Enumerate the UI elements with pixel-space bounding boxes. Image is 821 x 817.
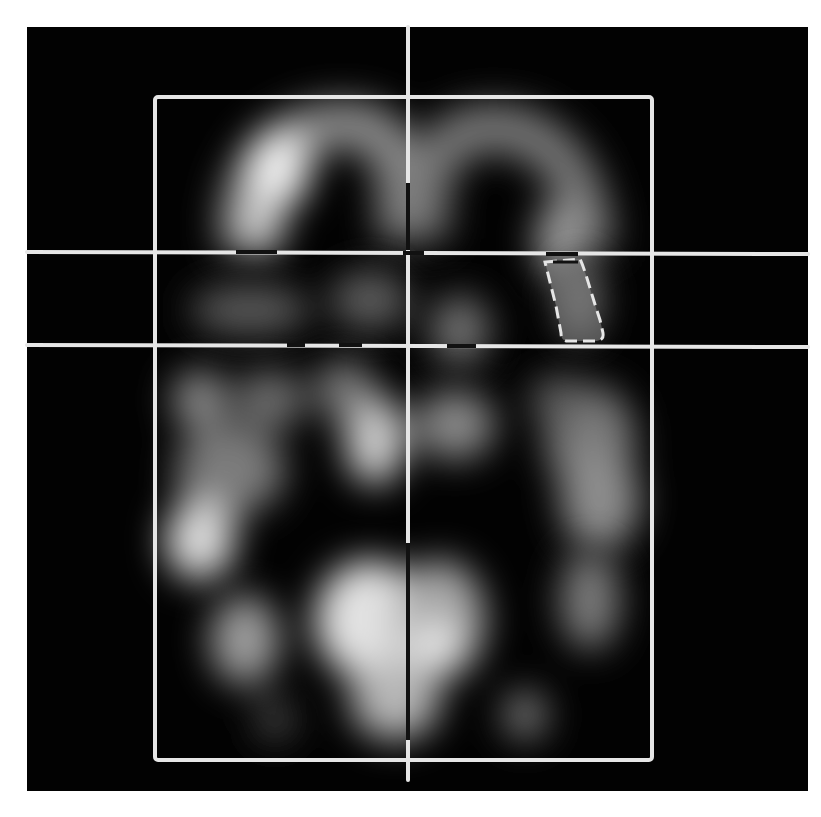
brain-activity-map: [27, 27, 808, 791]
image-description: Axial brain SPECT perfusion slice with o…: [0, 0, 1, 1]
mid-cortex: [190, 260, 602, 365]
temporal-regions: [165, 360, 640, 580]
frontal-cortex: [240, 125, 590, 280]
brain-scan-image: [27, 27, 808, 791]
posterior-regions: [210, 550, 620, 740]
